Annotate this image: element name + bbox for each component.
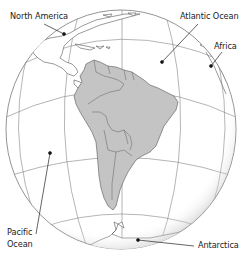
label-africa: Africa [214,42,237,51]
label-north-america: North America [10,12,68,21]
label-pacific-ocean-line1: Pacific [7,228,32,237]
label-pacific-ocean-line2: Ocean [7,240,33,249]
globe-map [0,0,241,254]
label-atlantic-ocean: Atlantic Ocean [180,12,239,21]
label-antarctica: Antarctica [198,241,239,250]
